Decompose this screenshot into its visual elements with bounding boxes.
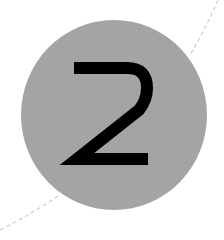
number-badge: 2 [21, 20, 207, 210]
number-two-glyph [21, 20, 207, 210]
